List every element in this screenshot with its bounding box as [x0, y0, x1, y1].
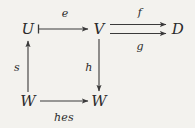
node-label-w-middle: W: [91, 94, 107, 109]
node-label-d: D: [172, 22, 184, 37]
edge-label-s: s: [14, 62, 20, 73]
edge-label-hes: hes: [54, 112, 74, 123]
edge-label-f: f: [138, 7, 142, 18]
node-label-v: V: [93, 22, 104, 37]
edge-label-g: g: [136, 41, 143, 52]
edge-label-h: h: [85, 62, 92, 73]
node-label-u: U: [22, 22, 35, 37]
edge-label-e: e: [62, 8, 69, 19]
node-label-w-left: W: [20, 94, 36, 109]
commutative-diagram: U V D W W e f g s h hes: [0, 0, 195, 128]
arrow-u-to-v: [39, 25, 89, 34]
